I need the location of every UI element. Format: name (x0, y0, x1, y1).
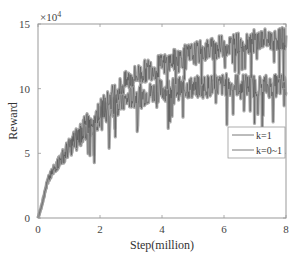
legend-label-k01: k=0~1 (256, 145, 282, 156)
xtick-8: 8 (283, 223, 289, 235)
ytick-15: 15 (19, 18, 31, 30)
ytick-5: 5 (25, 147, 31, 159)
ytick-0: 0 (25, 212, 31, 224)
plot-area (38, 28, 286, 219)
y-axis-label: Reward (6, 102, 20, 139)
xtick-6: 6 (221, 223, 227, 235)
xtick-2: 2 (97, 223, 103, 235)
x-axis-label: Step(million) (130, 238, 194, 252)
legend-label-k1: k=1 (256, 130, 272, 141)
legend: k=1 k=0~1 (228, 127, 285, 158)
xtick-4: 4 (159, 223, 165, 235)
ytick-10: 10 (19, 83, 31, 95)
reward-chart: 15 10 5 0 0 2 4 6 8 ×104 Step(million) R… (0, 0, 296, 260)
y-multiplier: ×104 (40, 10, 61, 23)
xtick-0: 0 (35, 223, 41, 235)
